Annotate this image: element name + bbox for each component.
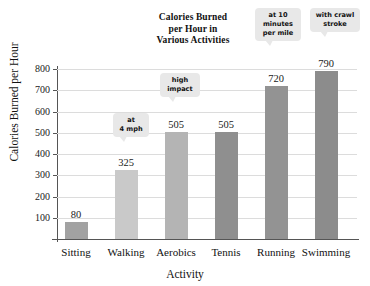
bar-sitting	[65, 222, 88, 239]
y-axis-tick-label: 600	[22, 107, 50, 117]
gridline	[57, 69, 357, 70]
x-axis-title: Activity	[0, 268, 370, 280]
callout-line: high	[164, 76, 196, 85]
gridline	[57, 112, 357, 113]
callout-line: minutes	[259, 20, 297, 29]
bar-walking	[115, 170, 138, 239]
chart-title-line-3: Various Activities	[134, 35, 252, 47]
y-axis-tick-mark	[53, 69, 57, 70]
callout-line: 4 mph	[117, 125, 145, 134]
bar-tennis	[215, 132, 238, 239]
y-axis-tick-label: 700	[22, 85, 50, 95]
bar-value-label: 505	[156, 119, 196, 130]
bar-running	[265, 86, 288, 239]
y-axis-tick-mark	[53, 112, 57, 113]
gridline	[57, 90, 357, 91]
gridline	[57, 133, 357, 134]
gridline	[57, 218, 357, 219]
y-axis-tick-mark	[53, 133, 57, 134]
y-axis-tick-mark	[53, 197, 57, 198]
callout-walking: at4 mph	[113, 113, 149, 137]
gridline	[57, 154, 357, 155]
callout-line: at	[117, 116, 145, 125]
y-axis-tick-mark	[53, 175, 57, 176]
callout-pointer	[168, 96, 176, 102]
y-axis-tick-label: 300	[22, 170, 50, 180]
chart-title: Calories Burned per Hour in Various Acti…	[134, 12, 252, 47]
callout-pointer	[320, 31, 328, 37]
callout-pointer	[119, 136, 127, 142]
bar-value-label: 505	[206, 119, 246, 130]
bar-value-label: 325	[106, 157, 146, 168]
bar-swimming	[315, 71, 338, 239]
y-axis-tick-mark	[53, 154, 57, 155]
chart-title-line-1: Calories Burned	[134, 12, 252, 24]
y-axis-tick-label: 100	[22, 213, 50, 223]
y-axis-tick-mark	[53, 90, 57, 91]
x-axis-line	[52, 239, 359, 240]
x-tick-label-swimming: Swimming	[296, 246, 356, 258]
plot-area	[57, 69, 357, 239]
bar-value-label: 80	[56, 209, 96, 220]
callout-line: impact	[164, 85, 196, 94]
gridline	[57, 197, 357, 198]
chart-title-line-2: per Hour in	[134, 24, 252, 36]
callout-line: at 10	[259, 11, 297, 20]
y-axis-title: Calories Burned per Hour	[8, 2, 20, 202]
callout-line: stroke	[314, 20, 356, 29]
gridline	[57, 175, 357, 176]
callout-running: at 10minutesper mile	[255, 8, 301, 41]
bar-value-label: 790	[306, 58, 346, 69]
bar-aerobics	[165, 132, 188, 239]
callout-pointer	[265, 40, 273, 46]
callout-line: per mile	[259, 29, 297, 38]
callout-swimming: with crawlstroke	[310, 8, 360, 32]
y-axis-tick-label: 400	[22, 149, 50, 159]
callout-line: with crawl	[314, 11, 356, 20]
y-axis-tick-label: 800	[22, 64, 50, 74]
bar-value-label: 720	[256, 73, 296, 84]
callout-aerobics: highimpact	[160, 73, 200, 97]
y-axis-tick-label: 200	[22, 192, 50, 202]
y-axis-tick-label: 500	[22, 128, 50, 138]
chart-container: Calories Burned per Hour in Various Acti…	[0, 0, 370, 286]
